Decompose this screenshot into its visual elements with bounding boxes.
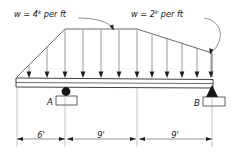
support-b-ground	[203, 97, 225, 106]
beam	[16, 78, 213, 88]
load-arrow	[180, 44, 185, 78]
roller-support-icon	[62, 87, 71, 96]
support-b: B	[194, 85, 225, 108]
left-load-annotation: w = 4k per ft	[14, 9, 114, 31]
left-load-label: w = 4k per ft	[14, 9, 67, 19]
dimension-9ft-mid-label: 9'	[97, 130, 105, 140]
load-arrow	[209, 53, 214, 78]
load-ramp-rising	[17, 29, 65, 77]
load-arrow	[99, 30, 104, 78]
left-load-label-prefix: w = 4	[14, 9, 38, 19]
load-arrow	[165, 39, 170, 78]
support-a-ground	[56, 96, 77, 105]
load-arrow	[63, 30, 68, 78]
right-load-annotation: w = 2k per ft	[131, 9, 220, 55]
support-b-label: B	[194, 98, 200, 108]
right-load-leader	[204, 18, 220, 53]
left-load-label-suffix: per ft	[41, 9, 67, 19]
load-arrow	[81, 30, 86, 78]
dimension-9ft-right: 9'	[139, 130, 212, 142]
load-arrow	[117, 30, 122, 78]
load-arrow	[135, 30, 140, 78]
dimension-9ft-right-label: 9'	[171, 130, 179, 140]
right-load-label-suffix: per ft	[158, 9, 184, 19]
pin-support-icon	[206, 85, 218, 97]
left-load-leader	[78, 18, 113, 28]
beam-midline	[16, 83, 213, 84]
dimension-9ft-mid: 9'	[67, 130, 136, 142]
support-a-label: A	[46, 97, 53, 107]
load-arrow	[45, 47, 50, 78]
load-arrow	[150, 35, 155, 78]
load-ramp-falling	[137, 29, 212, 53]
right-load-label: w = 2k per ft	[131, 9, 184, 19]
load-arrow-group	[27, 30, 214, 78]
support-a: A	[46, 87, 77, 107]
dimension-6ft: 6'	[17, 130, 65, 142]
beam-load-diagram: A B w = 4k per ft w = 2k per ft	[0, 0, 232, 152]
dimension-6ft-label: 6'	[37, 130, 45, 140]
right-load-label-prefix: w = 2	[131, 9, 155, 19]
load-distribution-outline	[17, 29, 212, 77]
load-arrow	[195, 48, 200, 78]
